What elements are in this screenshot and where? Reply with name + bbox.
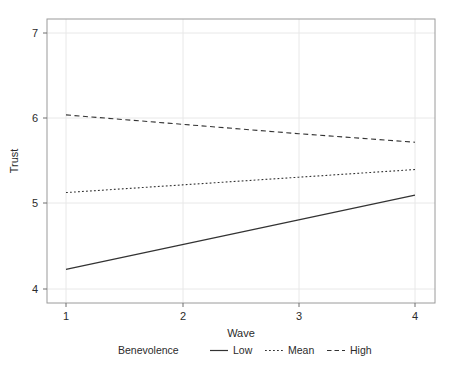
trust-by-wave-line-chart: 7 6 5 4 1 2 3 4 Wave Trust Benevolence L…: [0, 0, 455, 370]
x-tick-label-4: 4: [412, 310, 418, 322]
plot-panel: [47, 19, 435, 303]
y-tick-label-6: 6: [32, 112, 38, 124]
y-tick-label-7: 7: [32, 27, 38, 39]
legend-label-high: High: [350, 344, 372, 356]
x-tick-label-3: 3: [296, 310, 302, 322]
x-tick-label-1: 1: [63, 310, 69, 322]
legend-label-mean: Mean: [288, 344, 314, 356]
legend-title: Benevolence: [118, 344, 179, 356]
y-axis-title: Trust: [8, 149, 20, 174]
y-tick-label-5: 5: [32, 197, 38, 209]
legend-label-low: Low: [233, 344, 253, 356]
x-tick-label-2: 2: [180, 310, 186, 322]
x-axis-title: Wave: [227, 327, 255, 339]
y-tick-label-4: 4: [32, 283, 38, 295]
